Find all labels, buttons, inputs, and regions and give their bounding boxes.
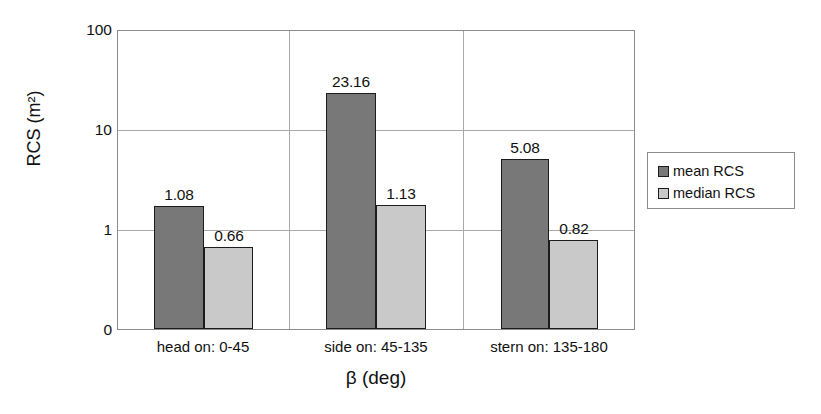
data-label-median-side-on: 1.13 xyxy=(371,185,431,203)
x-category-stern-on: stern on: 135-180 xyxy=(463,338,635,355)
y-tick-10: 10 xyxy=(42,121,112,139)
x-axis-title: β (deg) xyxy=(117,367,635,389)
bar-median-side-on xyxy=(376,205,426,329)
bar-mean-side-on xyxy=(326,93,376,329)
y-axis-title: RCS (m²) xyxy=(24,49,45,209)
data-label-mean-stern-on: 5.08 xyxy=(495,139,555,157)
legend-swatch-mean-icon xyxy=(658,166,669,177)
gridline-10 xyxy=(118,130,634,131)
bar-mean-head-on xyxy=(154,206,204,329)
bar-mean-stern-on xyxy=(501,159,549,329)
data-label-mean-head-on: 1.08 xyxy=(149,186,209,204)
rcs-bar-chart: 100 10 1 0 RCS (m²) 1.08 0.66 23.16 1.13… xyxy=(0,0,821,414)
y-tick-0: 0 xyxy=(42,321,112,339)
bar-median-head-on xyxy=(204,247,253,329)
y-axis-tick-labels: 100 10 1 0 xyxy=(40,0,112,414)
bar-median-stern-on xyxy=(549,240,598,329)
y-tick-1: 1 xyxy=(42,221,112,239)
legend-swatch-median-icon xyxy=(658,188,669,199)
data-label-mean-side-on: 23.16 xyxy=(315,73,387,91)
plot-area: 1.08 0.66 23.16 1.13 5.08 0.82 xyxy=(117,30,635,330)
category-separator-2 xyxy=(463,31,464,329)
y-tick-100: 100 xyxy=(42,21,112,39)
legend-item-mean: mean RCS xyxy=(658,160,794,182)
x-category-head-on: head on: 0-45 xyxy=(117,338,289,355)
legend-item-median: median RCS xyxy=(658,182,794,204)
x-category-side-on: side on: 45-135 xyxy=(289,338,463,355)
data-label-median-stern-on: 0.82 xyxy=(544,220,604,238)
chart-legend: mean RCS median RCS xyxy=(647,152,795,209)
category-separator-1 xyxy=(289,31,290,329)
data-label-median-head-on: 0.66 xyxy=(199,227,259,245)
legend-label-median: median RCS xyxy=(673,185,755,201)
legend-label-mean: mean RCS xyxy=(673,163,744,179)
